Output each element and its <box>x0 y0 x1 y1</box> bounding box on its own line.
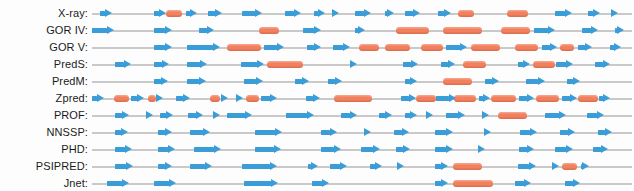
strand-arrow-head-icon <box>236 94 243 102</box>
strand-arrow-head-icon <box>529 162 536 170</box>
strand-arrow-head-icon <box>213 111 220 119</box>
strand-arrow <box>255 128 283 137</box>
strand-arrow-body <box>154 181 169 187</box>
strand-arrow-head-icon <box>196 111 203 119</box>
helix-segment <box>536 95 559 103</box>
strand-arrow-head-icon <box>350 60 357 68</box>
strand-arrow-head-icon <box>565 9 572 17</box>
strand-arrow <box>321 128 337 137</box>
strand-arrow <box>435 179 448 188</box>
strand-arrow-head-icon <box>483 94 490 102</box>
strand-arrow-body <box>578 45 585 51</box>
row-label: GOR IV: <box>0 22 88 39</box>
strand-arrow <box>595 60 610 69</box>
strand-arrow <box>107 179 129 188</box>
strand-arrow-head-icon <box>385 111 392 119</box>
strand-arrow-body <box>188 113 196 119</box>
strand-arrow <box>242 162 276 171</box>
strand-arrow-head-icon <box>617 26 624 34</box>
strand-arrow-body <box>158 164 165 170</box>
strand-arrow-head-icon <box>605 128 612 136</box>
strand-arrow-head-icon <box>593 9 600 17</box>
strand-arrow-head-icon <box>573 77 580 85</box>
strand-arrow-body <box>208 11 215 17</box>
row-label: GOR V: <box>0 39 88 56</box>
strand-arrow-head-icon <box>165 43 172 51</box>
row-label: X-ray: <box>0 5 88 22</box>
strand-arrow-head-icon <box>449 94 456 102</box>
strand-arrow-head-icon <box>441 179 448 187</box>
strand-arrow-head-icon <box>214 145 221 153</box>
strand-arrow <box>565 179 580 188</box>
strand-arrow-body <box>321 147 334 153</box>
strand-arrow-head-icon <box>107 26 114 34</box>
strand-arrow-body <box>361 147 373 153</box>
helix-segment <box>453 180 493 188</box>
strand-arrow-head-icon <box>410 111 417 119</box>
strand-arrow-head-icon <box>161 77 168 85</box>
strand-arrow <box>244 77 263 86</box>
strand-arrow-head-icon <box>446 128 453 136</box>
strand-arrow-head-icon <box>614 43 621 51</box>
strand-arrow-head-icon <box>165 162 172 170</box>
strand-arrow-body <box>555 11 566 17</box>
strand-arrow-body <box>519 96 527 102</box>
strand-arrow-head-icon <box>257 60 264 68</box>
strand-arrow-head-icon <box>302 77 309 85</box>
strand-arrow-body <box>92 28 107 34</box>
strand-arrow <box>588 9 600 18</box>
strand-arrow-body <box>515 181 524 187</box>
strand-arrow <box>446 43 467 52</box>
strand-arrow-body <box>307 45 314 51</box>
strand-arrow <box>314 9 325 18</box>
strand-arrow-head-icon <box>568 128 575 136</box>
strand-arrow-head-icon <box>552 162 559 170</box>
strand-arrow <box>154 26 172 35</box>
strand-arrow <box>242 9 262 18</box>
strand-arrow <box>518 60 531 69</box>
prediction-row: GOR IV: <box>0 22 634 39</box>
strand-arrow-head-icon <box>550 43 557 51</box>
strand-arrow <box>370 162 382 171</box>
structure-track <box>92 5 632 22</box>
strand-arrow <box>515 179 531 188</box>
strand-arrow-head-icon <box>566 60 573 68</box>
strand-arrow <box>578 43 592 52</box>
helix-segment <box>227 44 261 52</box>
strand-arrow-body <box>154 79 161 85</box>
strand-arrow-body <box>556 62 566 68</box>
strand-arrow-body <box>160 113 167 119</box>
strand-arrow <box>401 94 416 103</box>
strand-arrow-head-icon <box>603 60 610 68</box>
strand-arrow <box>328 77 343 86</box>
strand-arrow-body <box>598 130 606 136</box>
strand-arrow <box>264 43 284 52</box>
strand-arrow-body <box>158 130 165 136</box>
helix-segment <box>114 95 129 103</box>
helix-segment <box>246 95 259 103</box>
strand-arrow-body <box>441 62 449 68</box>
strand-arrow-head-icon <box>373 145 380 153</box>
strand-arrow-body <box>194 147 215 153</box>
strand-arrow-head-icon <box>524 179 531 187</box>
prediction-row: GOR V: <box>0 39 634 56</box>
strand-arrow <box>115 60 130 69</box>
strand-arrow-body <box>520 130 530 136</box>
strand-arrow <box>115 145 132 154</box>
strand-arrow <box>405 77 418 86</box>
strand-arrow-head-icon <box>168 145 175 153</box>
strand-arrow-body <box>446 45 460 51</box>
strand-arrow-body <box>244 181 271 187</box>
strand-arrow-head-icon <box>270 162 277 170</box>
strand-arrow-head-icon <box>213 43 220 51</box>
strand-arrow <box>333 43 350 52</box>
strand-arrow-body <box>115 113 122 119</box>
strand-arrow-body <box>190 130 203 136</box>
strand-arrow-head-icon <box>137 94 144 102</box>
strand-arrow-body <box>435 147 446 153</box>
strand-arrow-head-icon <box>270 94 277 102</box>
strand-arrow <box>405 111 417 120</box>
helix-segment <box>515 44 538 52</box>
strand-arrow <box>154 43 172 52</box>
strand-arrow-body <box>295 79 302 85</box>
